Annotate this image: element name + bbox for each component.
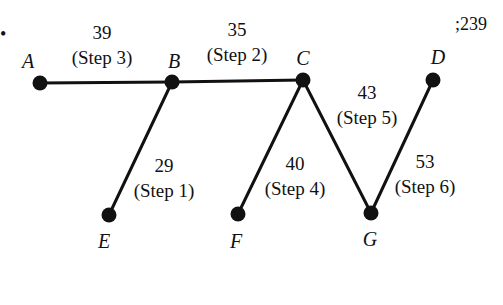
node-label-g: G — [363, 228, 378, 250]
edge-step-label: (Step 3) — [72, 47, 133, 69]
node-label-a: A — [20, 50, 35, 72]
edge-a-b — [40, 82, 172, 83]
node-label-c: C — [296, 47, 310, 69]
node-a — [33, 76, 48, 91]
node-d — [426, 73, 441, 88]
edge-step-label: (Step 4) — [265, 178, 326, 200]
node-c — [296, 73, 311, 88]
edge-step-label: (Step 1) — [134, 180, 195, 202]
edge-step-label: (Step 2) — [207, 44, 268, 66]
edge-weight-label: 53 — [416, 151, 435, 172]
minimum-spanning-tree-diagram: 29(Step 1)35(Step 2)39(Step 3)40(Step 4)… — [0, 0, 503, 305]
bullet-mark: • — [0, 24, 6, 44]
edge-weight-label: 29 — [155, 155, 174, 176]
page-reference: ;239 — [455, 14, 487, 34]
edge-weight-label: 40 — [286, 153, 305, 174]
edge-b-c — [172, 80, 303, 82]
node-e — [102, 208, 117, 223]
node-label-f: F — [229, 230, 243, 252]
nodes — [33, 73, 441, 223]
edge-weight-label: 43 — [358, 82, 377, 103]
edge-weight-label: 35 — [228, 19, 247, 40]
node-label-d: D — [430, 46, 446, 68]
node-label-e: E — [97, 230, 110, 252]
node-f — [231, 207, 246, 222]
edge-step-label: (Step 6) — [395, 176, 456, 198]
node-b — [165, 75, 180, 90]
edge-step-label: (Step 5) — [337, 107, 398, 129]
edge-weight-label: 39 — [93, 22, 112, 43]
node-g — [364, 206, 379, 221]
node-label-b: B — [168, 50, 180, 72]
